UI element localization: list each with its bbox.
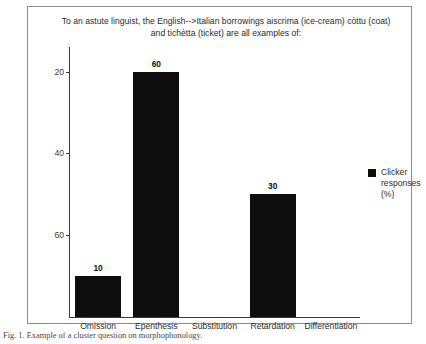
chart-frame: To an astute linguist, the English-->Ita… [27,6,412,324]
bar-value-label: 30 [250,181,296,191]
figure-caption: Fig. 1. Example of a cluster question on… [3,331,423,341]
bar-differentiation[interactable] [308,46,354,317]
y-axis-tick-mark [66,72,69,73]
bar-retardation[interactable]: 30 [250,46,296,317]
bar-value-label: 60 [133,59,179,69]
y-axis-line [69,47,70,318]
x-axis-label-epenthesis: Epenthesis [127,321,185,331]
x-axis-label-differentiation: Differentiation [302,321,360,331]
x-axis-line [69,317,360,318]
x-axis-label-substitution: Substitution [185,321,243,331]
y-axis-tick-label: 40 [54,148,64,158]
plot-area: 604020 106030 OmissionEpenthesisSubstitu… [69,47,360,318]
legend-swatch-icon [368,169,376,177]
y-axis-tick-mark [66,235,69,236]
x-axis-label-omission: Omission [69,321,127,331]
bar-rect[interactable] [75,276,121,317]
y-axis-tick-mark [66,153,69,154]
bar-omission[interactable]: 10 [75,46,121,317]
x-axis-label-retardation: Retardation [244,321,302,331]
y-axis-tick-label: 60 [54,230,64,240]
bar-rect[interactable] [250,194,296,317]
bar-rect[interactable] [133,72,179,317]
legend-label: Clickerresponses(%) [381,167,426,200]
y-axis-tick-label: 20 [54,67,64,77]
bar-substitution[interactable] [192,46,238,317]
bar-epenthesis[interactable]: 60 [133,46,179,317]
bar-value-label: 10 [75,263,121,273]
chart-title: To an astute linguist, the English-->Ita… [61,16,391,39]
